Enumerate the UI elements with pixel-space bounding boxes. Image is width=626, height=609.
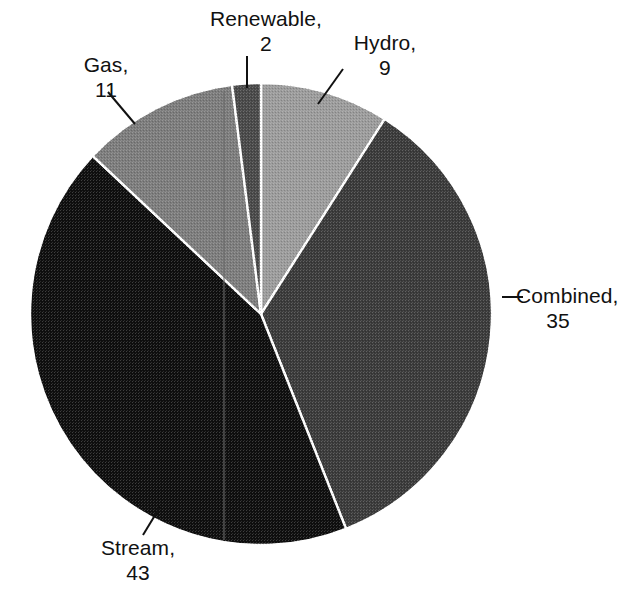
pie-label-renewable-name: Renewable, xyxy=(196,6,336,31)
pie-label-hydro-name: Hydro, xyxy=(330,30,440,55)
halftone-texture-overlay xyxy=(30,83,492,545)
pie-label-renewable: Renewable, 2 xyxy=(196,6,336,56)
pie-label-combined-name: Combined, xyxy=(516,283,626,308)
pie-label-renewable-value: 2 xyxy=(196,31,336,56)
pie-label-stream: Stream, 43 xyxy=(78,535,198,585)
pie-label-hydro: Hydro, 9 xyxy=(330,30,440,80)
pie-label-gas: Gas, 11 xyxy=(66,52,146,102)
pie-label-stream-name: Stream, xyxy=(78,535,198,560)
pie-label-combined-value: 35 xyxy=(516,308,626,333)
pie-label-gas-value: 11 xyxy=(66,77,146,102)
pie-label-hydro-value: 9 xyxy=(330,55,440,80)
pie-label-gas-name: Gas, xyxy=(66,52,146,77)
pie-label-stream-value: 43 xyxy=(78,560,198,585)
pie-chart: Renewable, 2 Hydro, 9 Gas, 11 Combined, … xyxy=(0,0,626,609)
pie-label-combined: Combined, 35 xyxy=(516,283,626,333)
